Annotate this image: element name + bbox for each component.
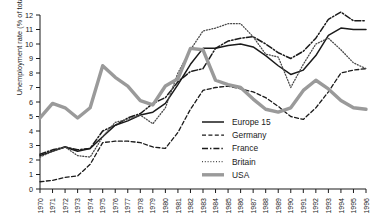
x-tick-label: 1986 (237, 198, 244, 214)
axes (40, 15, 366, 189)
legend-label-germany: Germany (232, 130, 267, 140)
x-tick-label: 1995 (350, 198, 357, 214)
x-tick-label: 1976 (112, 198, 119, 214)
y-tick-label: 5 (29, 112, 33, 121)
x-tick-label: 1982 (187, 198, 194, 214)
series-line-europe-15 (40, 28, 366, 156)
x-tick-label: 1972 (62, 198, 69, 214)
y-tick-label: 4 (29, 127, 33, 136)
y-tick-label: 12 (25, 11, 33, 20)
x-tick-label: 1970 (37, 198, 44, 214)
y-axis-ticks: 0123456789101112 (25, 11, 40, 194)
y-tick-label: 6 (29, 98, 33, 107)
y-tick-label: 11 (25, 25, 33, 34)
unemployment-line-chart: Unemployment rate (% of total workforce)… (0, 0, 373, 223)
x-tick-label: 1978 (137, 198, 144, 214)
series-line-usa (40, 48, 366, 118)
x-axis-ticks: 1970197119721973197419751976197719781979… (37, 189, 370, 214)
x-tick-label: 1992 (312, 198, 319, 214)
x-tick-label: 1983 (200, 198, 207, 214)
x-tick-label: 1993 (325, 198, 332, 214)
x-tick-label: 1994 (338, 198, 345, 214)
x-tick-label: 1990 (287, 198, 294, 214)
y-tick-label: 7 (29, 83, 33, 92)
x-tick-label: 1988 (262, 198, 269, 214)
x-tick-label: 1975 (99, 198, 106, 214)
x-tick-label: 1974 (87, 198, 94, 214)
x-tick-label: 1984 (212, 198, 219, 214)
legend-label-france: France (232, 143, 258, 153)
x-tick-label: 1985 (225, 198, 232, 214)
x-tick-label: 1991 (300, 198, 307, 214)
y-tick-label: 10 (25, 40, 33, 49)
x-tick-label: 1996 (363, 198, 370, 214)
legend-label-europe-15: Europe 15 (232, 117, 271, 127)
x-tick-label: 1989 (275, 198, 282, 214)
x-tick-label: 1980 (162, 198, 169, 214)
series-line-germany (40, 69, 366, 182)
chart-legend: Europe 15GermanyFranceBritainUSA (202, 117, 271, 180)
x-tick-label: 1971 (49, 198, 56, 214)
y-tick-label: 8 (29, 69, 33, 78)
plot-canvas: 0123456789101112 19701971197219731974197… (0, 0, 373, 223)
y-tick-label: 1 (29, 170, 33, 179)
y-tick-label: 9 (29, 54, 33, 63)
x-tick-label: 1977 (124, 198, 131, 214)
y-tick-label: 0 (29, 185, 33, 194)
x-tick-label: 1987 (250, 198, 257, 214)
x-tick-label: 1981 (175, 198, 182, 214)
y-tick-label: 2 (29, 156, 33, 165)
legend-label-britain: Britain (232, 157, 256, 167)
data-series-group (40, 12, 366, 182)
legend-label-usa: USA (232, 170, 250, 180)
x-tick-label: 1973 (74, 198, 81, 214)
x-tick-label: 1979 (149, 198, 156, 214)
y-tick-label: 3 (29, 141, 33, 150)
